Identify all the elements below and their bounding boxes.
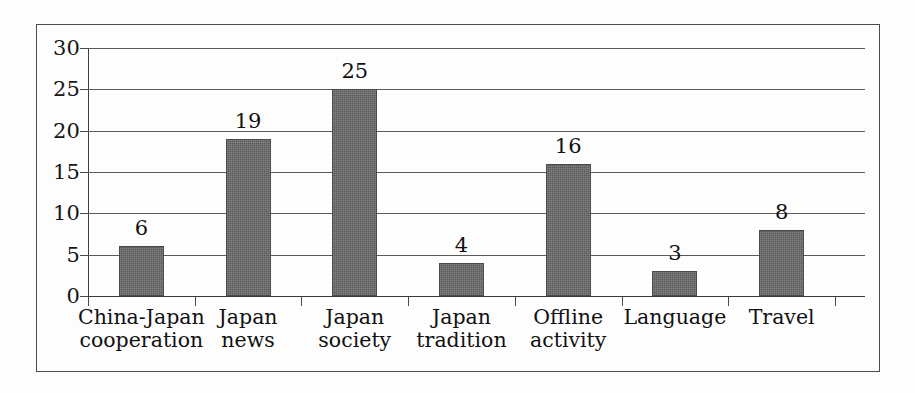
x-axis-tick-mark bbox=[301, 297, 302, 306]
bar-value-label: 19 bbox=[235, 109, 262, 133]
bar-value-label: 3 bbox=[668, 241, 681, 265]
y-axis-tick-label: 15 bbox=[36, 160, 80, 184]
gridline bbox=[88, 48, 865, 49]
x-axis-category-label: Language bbox=[624, 306, 727, 329]
bar-value-label: 8 bbox=[775, 200, 788, 224]
bar bbox=[439, 263, 484, 296]
y-axis-tick-label: 30 bbox=[36, 36, 80, 60]
x-axis-tick-mark bbox=[408, 297, 409, 306]
bar-value-label: 16 bbox=[555, 134, 582, 158]
x-axis-tick-mark bbox=[835, 297, 836, 306]
x-axis-tick-mark bbox=[515, 297, 516, 306]
x-axis-category-label: Japan society bbox=[318, 306, 391, 352]
y-axis-tick-label: 20 bbox=[36, 119, 80, 143]
bar bbox=[332, 89, 377, 296]
bar-value-label: 4 bbox=[455, 233, 468, 257]
gridline bbox=[88, 89, 865, 90]
bar-chart-figure: 051015202530 6192541638 China-Japan coop… bbox=[0, 0, 915, 393]
bar-value-label: 6 bbox=[135, 216, 148, 240]
x-axis-category-label: China-Japan cooperation bbox=[78, 306, 205, 352]
bar bbox=[119, 246, 164, 296]
x-axis-tick-mark bbox=[622, 297, 623, 306]
y-axis-tick-label: 0 bbox=[36, 284, 80, 308]
gridline bbox=[88, 131, 865, 132]
gridline bbox=[88, 213, 865, 214]
plot-area bbox=[88, 48, 865, 296]
x-axis-category-label: Travel bbox=[749, 306, 815, 329]
bar bbox=[546, 164, 591, 296]
x-axis-category-label: Japan tradition bbox=[416, 306, 506, 352]
x-axis-tick-mark bbox=[728, 297, 729, 306]
bar bbox=[759, 230, 804, 296]
bar bbox=[226, 139, 271, 296]
bar-value-label: 25 bbox=[341, 59, 368, 83]
y-axis-tick-label: 10 bbox=[36, 201, 80, 225]
axis-baseline bbox=[88, 296, 865, 297]
gridline bbox=[88, 172, 865, 173]
x-axis-category-label: Offline activity bbox=[530, 306, 606, 352]
bar bbox=[652, 271, 697, 296]
x-axis-category-label: Japan news bbox=[219, 306, 278, 352]
y-axis-tick-label: 25 bbox=[36, 77, 80, 101]
y-axis-tick-label: 5 bbox=[36, 243, 80, 267]
gridline bbox=[88, 255, 865, 256]
